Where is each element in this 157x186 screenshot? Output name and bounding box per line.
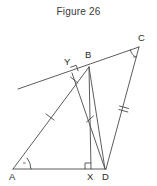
segment-cd: [106, 47, 139, 169]
vertex-label-c: C: [138, 33, 145, 43]
angle-label-c: α: [133, 54, 136, 59]
vertex-label-y: Y: [64, 57, 70, 67]
figure-container: Figure 26: [0, 0, 157, 186]
vertex-label-b: B: [85, 50, 91, 60]
geometry-diagram: [0, 0, 157, 186]
vertex-label-d: D: [102, 172, 109, 182]
tick-on-segment-cd-2: [119, 110, 128, 113]
segment-yd: [72, 73, 105, 169]
right-angle-at-x: [85, 163, 91, 169]
vertex-label-a: A: [9, 172, 15, 182]
tick-on-segment-cd-1: [120, 106, 129, 109]
vertex-label-x: X: [87, 172, 93, 182]
tick-on-segment-yb: [71, 77, 79, 83]
angle-arc-a: [27, 158, 31, 169]
angle-label-a: α: [23, 160, 26, 165]
segment-transversal: [18, 47, 139, 89]
